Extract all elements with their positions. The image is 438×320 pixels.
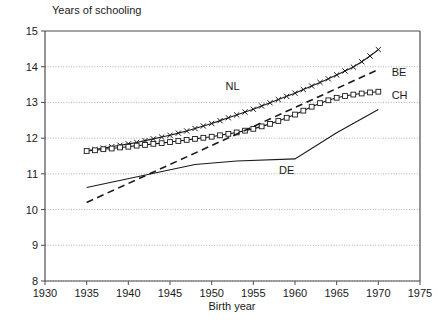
marker-square-ch (143, 143, 148, 148)
x-tick-label-1950: 1950 (199, 287, 223, 299)
marker-x-nl (309, 83, 314, 88)
marker-x-nl (326, 76, 331, 81)
marker-x-nl (284, 94, 289, 99)
x-axis-title: Birth year (208, 300, 255, 312)
plot-frame (45, 31, 420, 281)
marker-x-nl (234, 112, 239, 117)
marker-square-ch (343, 94, 348, 99)
marker-square-ch (159, 141, 164, 146)
marker-square-ch (326, 98, 331, 103)
x-tick-label-1935: 1935 (74, 287, 98, 299)
marker-x-nl (242, 109, 247, 114)
data-series-group (84, 47, 381, 202)
y-tick-label-12: 12 (26, 132, 38, 144)
marker-square-ch (251, 126, 256, 131)
marker-square-ch (184, 138, 189, 143)
series-label-be: BE (392, 66, 407, 78)
x-tick-label-1965: 1965 (324, 287, 348, 299)
marker-square-ch (109, 146, 114, 151)
y-axis: 89101112131415 (26, 25, 45, 287)
marker-square-ch (134, 143, 139, 148)
marker-square-ch (209, 134, 214, 139)
marker-square-ch (218, 133, 223, 138)
y-tick-label-11: 11 (27, 168, 38, 180)
marker-square-ch (118, 145, 123, 150)
marker-square-ch (226, 131, 231, 136)
marker-x-nl (334, 72, 339, 77)
marker-square-ch (376, 89, 381, 94)
marker-square-ch (359, 91, 364, 96)
marker-x-nl (367, 53, 372, 58)
marker-x-nl (259, 103, 264, 108)
marker-square-ch (101, 147, 106, 152)
x-tick-label-1970: 1970 (366, 287, 390, 299)
marker-square-ch (126, 144, 131, 149)
marker-x-nl (359, 59, 364, 64)
marker-square-ch (309, 104, 314, 109)
marker-square-ch (368, 90, 373, 95)
y-tick-label-8: 8 (32, 275, 38, 287)
marker-square-ch (284, 115, 289, 120)
marker-square-ch (318, 101, 323, 106)
marker-square-ch (84, 149, 89, 154)
marker-x-nl (292, 91, 297, 96)
grid-lines (45, 67, 420, 281)
y-tick-label-10: 10 (26, 204, 38, 216)
y-tick-label-14: 14 (26, 61, 38, 73)
marker-square-ch (301, 108, 306, 113)
marker-square-ch (201, 135, 206, 140)
marker-square-ch (268, 121, 273, 126)
y-tick-label-9: 9 (32, 239, 38, 251)
chart-container: 89101112131415 1930193519401945195019551… (0, 0, 438, 320)
marker-square-ch (93, 148, 98, 153)
marker-x-nl (376, 47, 381, 52)
marker-x-nl (276, 97, 281, 102)
marker-x-nl (317, 80, 322, 85)
series-labels: NLCHBEDE (225, 66, 407, 176)
x-tick-label-1930: 1930 (33, 287, 57, 299)
marker-square-ch (176, 139, 181, 144)
marker-x-nl (226, 115, 231, 120)
marker-x-nl (301, 87, 306, 92)
marker-x-nl (251, 107, 256, 112)
x-tick-label-1955: 1955 (241, 287, 265, 299)
x-tick-label-1945: 1945 (158, 287, 182, 299)
y-tick-label-15: 15 (26, 25, 38, 37)
marker-square-ch (334, 95, 339, 100)
x-tick-label-1960: 1960 (283, 287, 307, 299)
x-tick-label-1975: 1975 (408, 287, 432, 299)
x-tick-label-1940: 1940 (116, 287, 140, 299)
marker-square-ch (259, 124, 264, 129)
marker-x-nl (217, 118, 222, 123)
marker-square-ch (151, 141, 156, 146)
marker-square-ch (276, 119, 281, 124)
x-axis: 1930193519401945195019551960196519701975 (33, 281, 432, 299)
y-tick-label-13: 13 (26, 96, 38, 108)
series-label-de: DE (279, 164, 294, 176)
chart-title: Years of schooling (52, 4, 142, 16)
marker-x-nl (342, 68, 347, 73)
schooling-line-chart: 89101112131415 1930193519401945195019551… (0, 0, 438, 320)
marker-square-ch (293, 112, 298, 117)
marker-square-ch (193, 136, 198, 141)
series-label-nl: NL (225, 80, 239, 92)
series-label-ch: CH (392, 89, 408, 101)
marker-square-ch (351, 92, 356, 97)
marker-square-ch (168, 140, 173, 145)
